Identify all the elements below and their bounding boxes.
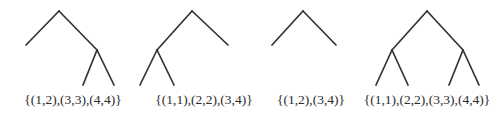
tree-4-edge-root-right-internal <box>427 11 463 50</box>
tree-1-label: {(1,2),(3,3),(4,4)} <box>0 91 146 109</box>
tree-2 <box>140 11 228 85</box>
tree-2-edge-root-left-internal <box>157 11 192 50</box>
tree-1-edge-right-internal-right-leaf <box>97 50 114 85</box>
tree-1-edge-root-right-internal <box>59 11 97 50</box>
tree-figure: {(1,2),(3,3),(4,4)} {(1,1),(2,2),(3,4)} … <box>0 0 502 121</box>
tree-2-edge-left-internal-left-leaf <box>140 50 157 85</box>
tree-2-edge-left-internal-right-leaf <box>157 50 174 85</box>
tree-3-label: {(1,2),(3,4)} <box>256 91 366 109</box>
tree-4-label: {(1,1),(2,2),(3,3),(4,4)} <box>352 91 502 109</box>
tree-4 <box>376 11 479 85</box>
tree-1-edge-right-internal-left-leaf <box>83 50 97 85</box>
tree-3 <box>272 11 336 45</box>
tree-4-edge-root-left-internal <box>392 11 427 50</box>
tree-2-label: {(1,1),(2,2),(3,4)} <box>134 91 274 109</box>
tree-3-edge-root-left-leaf <box>272 11 303 45</box>
tree-3-edge-root-right-leaf <box>303 11 336 45</box>
tree-4-edge-left-internal-right-leaf <box>392 50 408 85</box>
tree-2-edge-root-right-leaf <box>192 11 228 45</box>
tree-4-edge-right-internal-left-leaf <box>449 50 463 85</box>
tree-1-edge-root-left-leaf <box>26 11 59 45</box>
tree-1 <box>26 11 114 85</box>
tree-4-edge-left-internal-left-leaf <box>376 50 392 85</box>
tree-4-edge-right-internal-right-leaf <box>463 50 479 85</box>
